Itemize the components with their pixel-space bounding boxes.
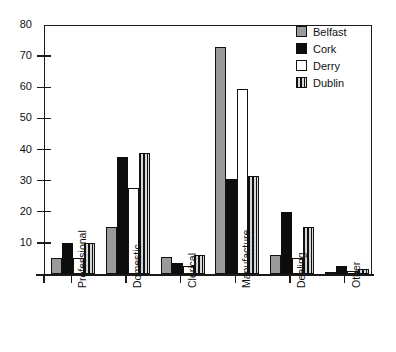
bar-group bbox=[161, 25, 205, 274]
bar-cork-domestic bbox=[117, 157, 128, 274]
x-axis-tick bbox=[344, 274, 345, 283]
x-axis-tick bbox=[125, 274, 126, 283]
x-axis-label-professional: Professional bbox=[77, 230, 88, 288]
y-axis-label: 40 bbox=[0, 144, 32, 155]
x-axis-label-manufacture: Manufacture bbox=[241, 230, 252, 288]
y-axis-label: 70 bbox=[0, 50, 32, 61]
y-axis-label: 80 bbox=[0, 19, 32, 30]
x-axis-label-other: Other bbox=[351, 262, 362, 288]
bar-belfast-clerical bbox=[161, 257, 172, 274]
y-axis-label: 50 bbox=[0, 112, 32, 123]
bar-belfast-professional bbox=[51, 258, 62, 274]
chart-legend: BelfastCorkDerryDublin bbox=[296, 24, 347, 92]
y-axis-label: 60 bbox=[0, 81, 32, 92]
x-axis-label-dealing: Dealing bbox=[296, 252, 307, 288]
legend-item-belfast: Belfast bbox=[296, 24, 347, 39]
bar-group bbox=[106, 25, 150, 274]
bar-group bbox=[215, 25, 259, 274]
bar-cork-professional bbox=[62, 243, 73, 274]
x-axis-label-domestic: Domestic bbox=[132, 244, 143, 288]
legend-swatch-belfast bbox=[296, 26, 307, 37]
legend-item-dublin: Dublin bbox=[296, 75, 347, 90]
bar-cork-clerical bbox=[172, 263, 183, 274]
legend-swatch-dublin bbox=[296, 77, 307, 88]
bar-cork-dealing bbox=[281, 212, 292, 274]
legend-swatch-derry bbox=[296, 60, 307, 71]
x-axis-tick bbox=[289, 274, 290, 283]
bar-group bbox=[51, 25, 95, 274]
y-axis-label: 10 bbox=[0, 237, 32, 248]
x-axis-label-clerical: Clerical bbox=[187, 253, 198, 288]
x-axis-tick bbox=[235, 274, 236, 283]
bar-belfast-dealing bbox=[270, 255, 281, 274]
bar-belfast-other bbox=[325, 272, 336, 274]
bar-cork-other bbox=[336, 266, 347, 274]
bar-belfast-manufacture bbox=[215, 47, 226, 274]
legend-label: Dublin bbox=[313, 76, 344, 90]
legend-item-derry: Derry bbox=[296, 58, 347, 73]
x-axis-tick bbox=[71, 274, 72, 283]
bar-cork-manufacture bbox=[226, 179, 237, 274]
x-axis-tick-origin bbox=[43, 274, 44, 283]
legend-label: Derry bbox=[313, 59, 340, 73]
y-axis-label: 20 bbox=[0, 206, 32, 217]
bar-chart-figure: 8070605040302010 ProfessionalDomesticCle… bbox=[0, 0, 396, 352]
x-axis-tick bbox=[180, 274, 181, 283]
legend-label: Belfast bbox=[313, 25, 347, 39]
legend-item-cork: Cork bbox=[296, 41, 347, 56]
legend-label: Cork bbox=[313, 42, 336, 56]
bar-belfast-domestic bbox=[106, 227, 117, 274]
y-axis-label: 30 bbox=[0, 175, 32, 186]
legend-swatch-cork bbox=[296, 43, 307, 54]
